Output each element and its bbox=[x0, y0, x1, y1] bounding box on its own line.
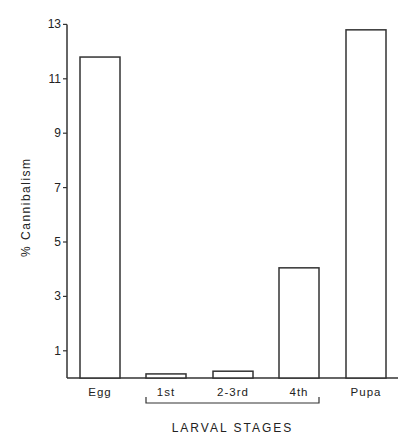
bar-egg bbox=[80, 57, 120, 378]
x-category-label: 1st bbox=[157, 386, 175, 398]
bar-pupa bbox=[346, 30, 386, 378]
y-tick-label: 7 bbox=[54, 181, 61, 195]
y-tick-label: 3 bbox=[54, 289, 61, 303]
x-category-label: 4th bbox=[290, 386, 309, 398]
bar-1st bbox=[146, 374, 186, 378]
y-tick-label: 1 bbox=[54, 344, 61, 358]
chart: 135791113Egg1st2-3rd4thPupa% Cannibalism… bbox=[0, 0, 402, 445]
y-tick-label: 11 bbox=[49, 72, 62, 86]
x-category-label: 2-3rd bbox=[217, 386, 249, 398]
y-tick-label: 5 bbox=[54, 235, 61, 249]
y-axis-label: % Cannibalism bbox=[19, 157, 33, 257]
x-category-label: Pupa bbox=[351, 386, 382, 398]
y-tick-label: 13 bbox=[48, 17, 62, 31]
larval-stages-label: LARVAL STAGES bbox=[172, 421, 294, 435]
bar-4th bbox=[279, 268, 319, 378]
x-category-label: Egg bbox=[88, 386, 111, 398]
bar-2-3rd bbox=[213, 371, 253, 378]
y-tick-label: 9 bbox=[54, 126, 61, 140]
